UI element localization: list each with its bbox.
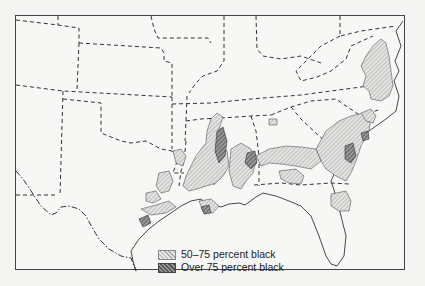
map-canvas: [16, 16, 406, 271]
regions-50-75-percent: [141, 39, 393, 215]
light-hatch-swatch-icon: [158, 250, 176, 260]
map-frame: [15, 15, 405, 270]
legend-item-50-75: 50–75 percent black: [158, 248, 284, 261]
legend-item-over-75: Over 75 percent black: [158, 261, 284, 274]
legend-label: 50–75 percent black: [181, 248, 276, 261]
legend-label: Over 75 percent black: [181, 261, 284, 274]
map-legend: 50–75 percent black Over 75 percent blac…: [158, 248, 284, 274]
international-border: [16, 171, 136, 271]
dark-hatch-swatch-icon: [158, 263, 176, 273]
